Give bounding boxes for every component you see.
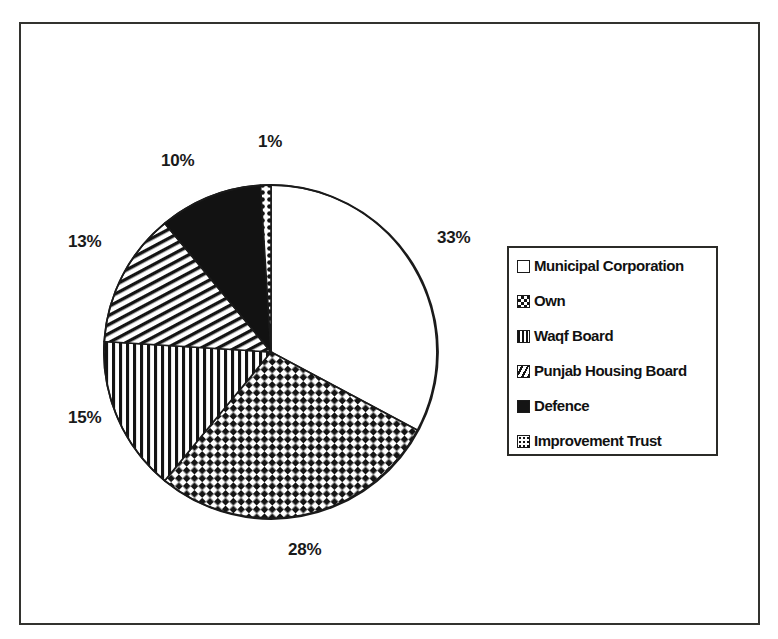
- legend-swatch-diamond-checkerboard-icon: [517, 295, 530, 308]
- pct-label-improvement-trust: 1%: [258, 132, 282, 152]
- pie-slices: [104, 185, 437, 518]
- legend-item-own[interactable]: Own: [517, 290, 565, 312]
- legend-swatch-white-empty-icon: [517, 260, 530, 273]
- legend-label: Punjab Housing Board: [534, 363, 687, 379]
- legend-label: Improvement Trust: [534, 433, 661, 449]
- pct-label-municipal-corporation: 33%: [437, 228, 470, 248]
- legend-item-municipal-corporation[interactable]: Municipal Corporation: [517, 255, 684, 277]
- legend-swatch-vertical-lines-icon: [517, 330, 530, 343]
- pct-label-defence: 10%: [161, 151, 194, 171]
- legend-item-improvement-trust[interactable]: Improvement Trust: [517, 430, 661, 452]
- pct-label-punjab-housing-board: 13%: [68, 232, 101, 252]
- legend-label: Defence: [534, 398, 589, 414]
- legend-label: Municipal Corporation: [534, 258, 684, 274]
- legend-item-waqf-board[interactable]: Waqf Board: [517, 325, 613, 347]
- plot-area: 33% 28% 15% 13% 10% 1% Municipal Corpora…: [0, 0, 778, 639]
- pct-label-own: 28%: [288, 540, 321, 560]
- legend-swatch-cross-dotted-icon: [517, 435, 530, 448]
- legend-swatch-solid-black-icon: [517, 400, 530, 413]
- legend-item-punjab-housing-board[interactable]: Punjab Housing Board: [517, 360, 687, 382]
- legend-item-defence[interactable]: Defence: [517, 395, 589, 417]
- legend: Municipal Corporation Own Waqf Board Pun…: [507, 246, 718, 456]
- legend-swatch-diagonal-lines-icon: [517, 365, 530, 378]
- legend-label: Own: [534, 293, 565, 309]
- pct-label-waqf-board: 15%: [68, 408, 101, 428]
- legend-label: Waqf Board: [534, 328, 613, 344]
- pie-chart-figure: 33% 28% 15% 13% 10% 1% Municipal Corpora…: [0, 0, 778, 639]
